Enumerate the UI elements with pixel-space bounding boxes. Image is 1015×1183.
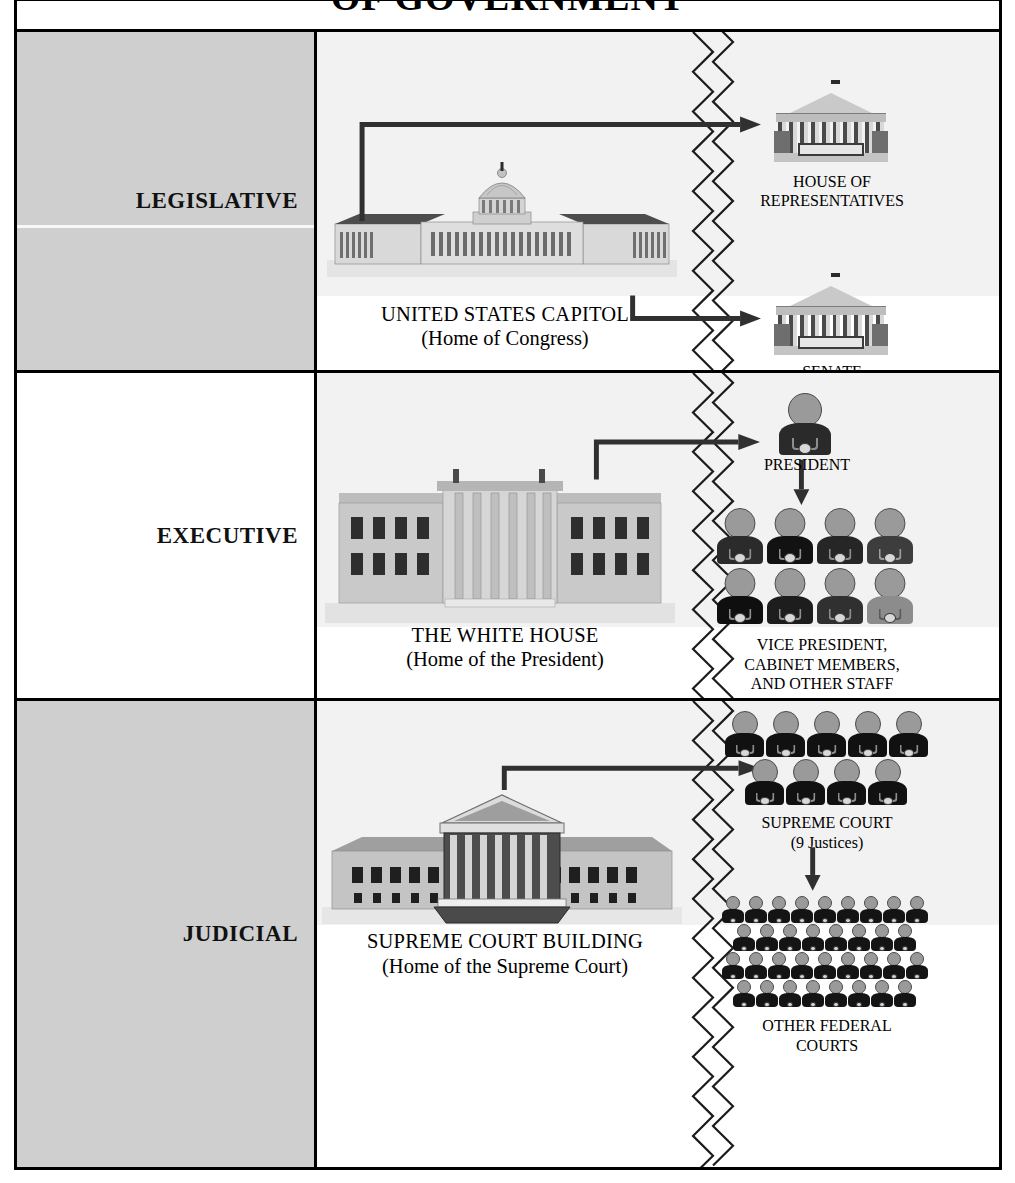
branches-table: LEGISLATIVE [17, 29, 999, 1167]
label-other-courts-line2: COURTS [702, 1036, 952, 1055]
branch-cell-executive: EXECUTIVE [17, 373, 317, 698]
content-cell-judicial: SUPREME COURT BUILDING (Home of the Supr… [317, 701, 999, 1167]
diagram-title-strip: OF GOVERNMENT [17, 1, 999, 29]
table-row-executive: EXECUTIVE [17, 370, 999, 698]
branch-label-executive: EXECUTIVE [157, 523, 298, 549]
branch-cell-judicial: JUDICIAL [17, 701, 317, 1167]
label-supreme-court-line2: (9 Justices) [702, 833, 952, 852]
supreme-court-justices-icon [725, 711, 928, 805]
label-other-courts-line1: OTHER FEDERAL [702, 1016, 952, 1035]
table-row-legislative: LEGISLATIVE [17, 32, 999, 370]
president-icon [779, 393, 831, 459]
label-house-line1: HOUSE OF [712, 172, 952, 191]
label-cabinet-line3: AND OTHER STAFF [697, 674, 947, 694]
branch-cell-legislative: LEGISLATIVE [17, 32, 317, 370]
flag-icon [831, 80, 840, 84]
label-other-federal-courts: OTHER FEDERAL COURTS [702, 1016, 952, 1054]
branch-label-judicial: JUDICIAL [183, 921, 298, 947]
label-supreme-court-line1: SUPREME COURT [702, 813, 952, 832]
label-cabinet-line1: VICE PRESIDENT, [697, 635, 947, 655]
label-cabinet-line2: CABINET MEMBERS, [697, 655, 947, 675]
house-of-representatives-icon [772, 87, 890, 163]
cabinet-staff-icon [717, 508, 913, 624]
branch-label-legislative: LEGISLATIVE [136, 188, 298, 214]
label-house-of-representatives: HOUSE OF REPRESENTATIVES [712, 172, 952, 210]
label-president-line1: PRESIDENT [717, 455, 897, 474]
label-president: PRESIDENT [717, 455, 897, 474]
diagram-frame: OF GOVERNMENT LEGISLATIVE [14, 0, 1002, 1170]
scan-artifact [17, 225, 314, 228]
three-branches-diagram: OF GOVERNMENT LEGISLATIVE [0, 0, 1015, 1183]
label-senate-line1: SENATE [712, 362, 952, 370]
content-cell-legislative: UNITED STATES CAPITOL (Home of Congress) [317, 32, 999, 370]
label-house-line2: REPRESENTATIVES [712, 191, 952, 210]
label-vice-president-cabinet: VICE PRESIDENT, CABINET MEMBERS, AND OTH… [697, 635, 947, 694]
table-row-judicial: JUDICIAL [17, 698, 999, 1167]
label-senate: SENATE [712, 362, 952, 370]
flag-icon [831, 273, 840, 277]
label-supreme-court: SUPREME COURT (9 Justices) [702, 813, 952, 851]
senate-icon [772, 280, 890, 356]
page-title: OF GOVERNMENT [17, 1, 999, 19]
content-cell-executive: THE WHITE HOUSE (Home of the President) [317, 373, 999, 698]
other-federal-courts-icon [722, 896, 928, 1007]
